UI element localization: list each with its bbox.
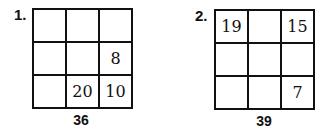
grid-cell: 20	[66, 75, 99, 108]
grid-cell: 10	[99, 75, 132, 108]
magic-sum: 39	[214, 113, 314, 129]
grid-cell: 19	[215, 10, 248, 43]
grid-cell	[66, 42, 99, 75]
grid-cell	[215, 43, 248, 76]
magic-sum: 36	[31, 112, 131, 128]
grid-cell	[66, 9, 99, 42]
number-grid: 8 20 10	[32, 8, 133, 109]
puzzle-number: 1.	[14, 6, 27, 23]
grid-cell	[281, 43, 314, 76]
number-grid: 19 15 7	[214, 9, 315, 110]
grid-cell	[99, 9, 132, 42]
grid-cell	[248, 76, 281, 109]
grid-cell	[248, 43, 281, 76]
puzzle-number: 2.	[195, 7, 208, 24]
grid-cell	[248, 10, 281, 43]
grid-cell: 15	[281, 10, 314, 43]
grid-cell	[33, 42, 66, 75]
grid-cell: 8	[99, 42, 132, 75]
grid-cell	[33, 9, 66, 42]
grid-cell	[215, 76, 248, 109]
grid-cell: 7	[281, 76, 314, 109]
grid-cell	[33, 75, 66, 108]
